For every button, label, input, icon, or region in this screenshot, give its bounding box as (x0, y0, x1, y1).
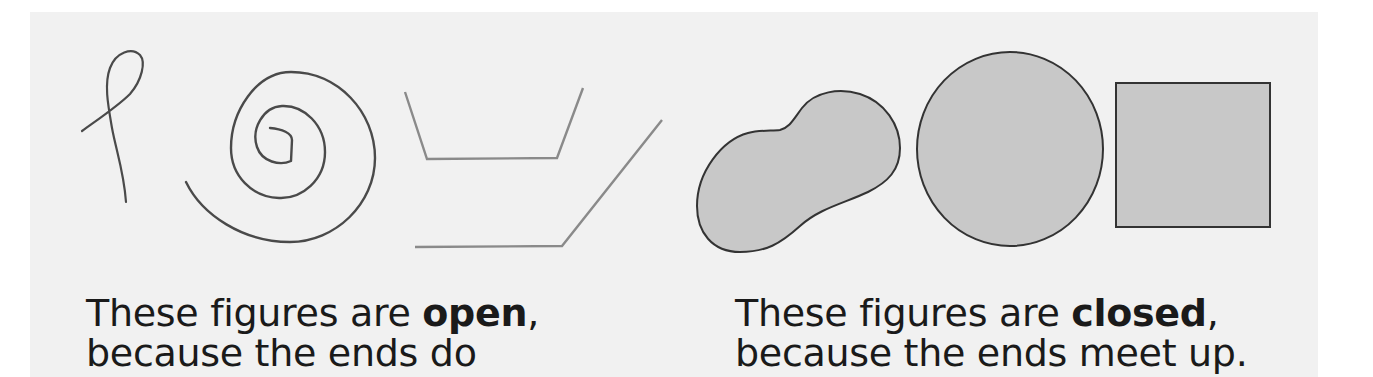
circle-figure (917, 52, 1103, 246)
closed-caption-line-2: because the ends meet up. (735, 333, 1247, 373)
square-figure (1116, 83, 1270, 227)
open-caption-line-2: because the ends do (86, 333, 539, 373)
closed-caption-suffix: , (1207, 291, 1219, 335)
figures-illustration (0, 0, 1373, 270)
loop-curve-figure (82, 51, 143, 202)
spiral-figure (186, 72, 375, 242)
open-caption-suffix: , (527, 291, 539, 335)
open-caption-line-1: These figures are open, (86, 293, 539, 333)
open-figures-group (82, 51, 662, 247)
open-bent-line-figure (415, 120, 662, 247)
open-bucket-polyline-figure (405, 88, 583, 159)
closed-caption-prefix: These figures are (735, 291, 1071, 335)
closed-figures-caption: These figures are closed, because the en… (735, 293, 1247, 373)
closed-figures-group (697, 52, 1270, 252)
blob-shape-figure (697, 91, 900, 252)
open-caption-prefix: These figures are (86, 291, 422, 335)
closed-caption-line-1: These figures are closed, (735, 293, 1247, 333)
open-caption-keyword: open (422, 291, 527, 335)
open-figures-caption: These figures are open, because the ends… (86, 293, 539, 373)
closed-caption-keyword: closed (1071, 291, 1206, 335)
